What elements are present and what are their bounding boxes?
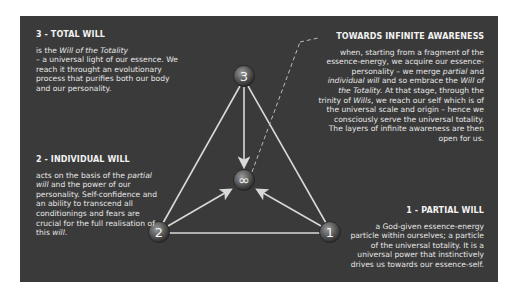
total-will-block: 3 - TOTAL WILL is the Will of the Totali… [36,30,186,94]
towards-infinite-title: TOWARDS INFINITE AWARENESS [318,32,484,42]
node-1: 1 [320,222,341,243]
towards-infinite-text: when, starting from a fragment of the es… [318,48,484,144]
partial-will-text: a God-given essence-energy particle with… [350,222,484,270]
svg-text:1: 1 [326,225,334,240]
infinity-icon: ∞ [238,172,250,188]
node-3: 3 [234,66,255,87]
partial-will-block: 1 - PARTIAL WILL a God-given essence-ene… [350,206,484,270]
node-infinity: ∞ [234,170,255,191]
towards-infinite-block: TOWARDS INFINITE AWARENESS when, startin… [318,32,484,144]
total-will-text: is the Will of the Totality– a universal… [36,46,186,94]
dashed-connector-top [300,38,318,42]
partial-will-title: 1 - PARTIAL WILL [350,206,484,216]
total-will-title: 3 - TOTAL WILL [36,30,186,40]
individual-will-title: 2 - INDIVIDUAL WILL [36,155,166,165]
individual-will-text: acts on the basis of the partial will an… [36,171,166,238]
arrows-to-center [168,87,321,226]
svg-text:3: 3 [240,69,248,84]
individual-will-block: 2 - INDIVIDUAL WILL acts on the basis of… [36,155,166,238]
